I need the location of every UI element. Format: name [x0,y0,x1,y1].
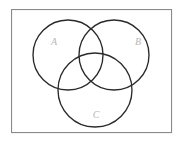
set-label-b: B [135,36,141,47]
set-label-a: A [50,36,58,47]
venn-diagram-canvas: A B C [0,0,181,143]
set-label-c: C [93,109,100,120]
venn-diagram-figure: A B C [0,0,181,143]
